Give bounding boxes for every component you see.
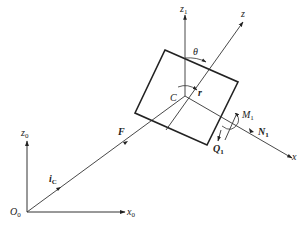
- label-theta: θ: [193, 46, 198, 57]
- label-z0: z0: [20, 127, 29, 140]
- label-N1: N1: [257, 126, 269, 139]
- rigid-body-rectangle: [135, 50, 238, 145]
- x-axis: [185, 96, 292, 158]
- label-Q1: Q1: [213, 143, 224, 156]
- r-rotation-arc: [178, 86, 197, 90]
- F-arrow-icon: [123, 141, 128, 145]
- label-iC: iC: [49, 173, 57, 186]
- label-x0: x0: [126, 206, 135, 219]
- label-F: F: [117, 126, 125, 137]
- label-z: z: [240, 8, 245, 19]
- label-C: C: [170, 92, 177, 103]
- label-M1: M1: [241, 109, 254, 122]
- label-O0: O0: [10, 206, 21, 219]
- z-axis: [166, 22, 243, 130]
- label-r: r: [198, 87, 202, 98]
- Q1-arrow: [218, 130, 221, 141]
- label-z1: z1: [179, 3, 188, 16]
- position-line: [27, 96, 185, 212]
- label-x: x: [291, 151, 297, 162]
- N1-arrow-icon: [249, 128, 254, 133]
- diagram-canvas: z1 z θ C r M1 N1 Q1 x F iC z0 O0 x0: [0, 0, 307, 230]
